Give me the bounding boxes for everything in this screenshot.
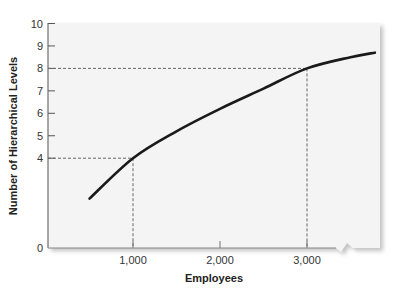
y-tick-label: 10 [31,18,43,30]
y-tick-label: 9 [37,40,43,52]
x-axis-title: Employees [185,272,243,284]
x-tick-label: 1,000 [119,254,147,266]
y-tick-label: 6 [37,107,43,119]
y-tick-label: 7 [37,85,43,97]
y-tick-label: 4 [37,152,43,164]
y-tick-label: 0 [37,242,43,254]
x-tick-label: 3,000 [293,254,321,266]
y-tick-label: 5 [37,130,43,142]
plot-area [48,23,380,252]
y-tick-label: 8 [37,62,43,74]
y-axis-title: Number of Hierarchical Levels [7,57,19,215]
chart: 045678910 1,0002,0003,000 Employees Numb… [0,0,405,298]
x-tick-label: 2,000 [206,254,234,266]
